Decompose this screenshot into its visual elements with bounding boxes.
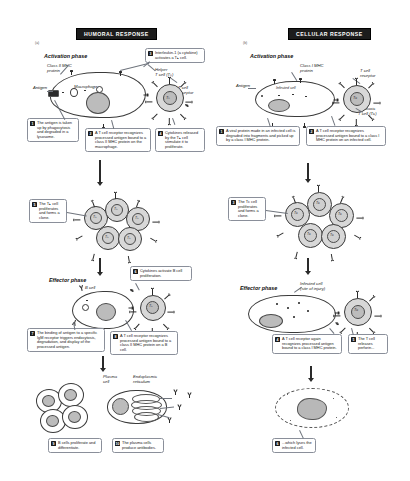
- plasma-cell-label: Plasma cell: [103, 374, 117, 384]
- step-text: B cells proliferate and differentiate.: [58, 441, 99, 450]
- step-text: Cytokines released by the Tₕ cell stimul…: [165, 131, 202, 149]
- callout-cellular-step-4: 4 A T cell receptor again recognizes pro…: [272, 334, 342, 354]
- infected-cell-injury-label: Infected cell (site of injury): [300, 281, 325, 291]
- callout-cellular-step-3: 3 The Tᴄ cell proliferates and forms a c…: [228, 197, 266, 221]
- infected-cell-effector-nucleus: [259, 314, 283, 328]
- cellular-t-cell-receptor-label: T cell receptor: [360, 68, 375, 78]
- step-number: 4: [275, 337, 280, 342]
- step-text: The Tₕ cell proliferates and forms a clo…: [39, 202, 64, 220]
- class-ii-mhc-nub: [120, 73, 121, 76]
- step-text: The T cell releases perforin...: [358, 337, 385, 351]
- step-text: Interleukin-1 (a cytokine) activates a T…: [155, 51, 202, 60]
- clone-cell-glyph: Tₕ: [135, 216, 138, 220]
- step-text: The antigen is taken up by phagocytosis …: [37, 121, 76, 139]
- callout-humoral-step-10: 10 The plasma cells produce antibodies.: [112, 438, 164, 453]
- step-number: 2: [309, 129, 314, 134]
- clone-cell-glyph: Tₕ: [127, 236, 130, 240]
- lysed-cell-debris: [297, 398, 327, 420]
- igm-receptor: [71, 319, 79, 327]
- step-number: 2: [88, 131, 93, 136]
- callout-humoral-step-9: 9 B cells proliferate and differentiate.: [48, 438, 102, 453]
- callout-humoral-step-3: 3 Interleukin-1 (a cytokine) activates a…: [145, 48, 205, 63]
- step-text: The binding of antigen to a specific IgM…: [37, 331, 102, 349]
- helper-t-cell-glyph: Tₕ: [166, 95, 170, 100]
- step-text: A viral protein made in an infected cell…: [226, 129, 297, 143]
- callout-humoral-step-6: 6 Cytokines activate B cell proliferatio…: [130, 266, 192, 281]
- class-i-mhc-label: Class I MHC protein: [300, 63, 324, 73]
- humoral-effector-phase-heading: Effector phase: [49, 277, 86, 283]
- class-i-mhc-nub: [334, 100, 337, 101]
- helper-t-cell-glyph: Tₕ: [149, 304, 152, 308]
- step-number: 5: [351, 337, 356, 342]
- step-number: 10: [115, 441, 120, 446]
- panel-marker-a: (a): [35, 41, 39, 45]
- step-text: A T cell receptor recognizes processed a…: [120, 334, 175, 352]
- cytotoxic-t-cell-glyph: Tᴄ: [354, 308, 358, 312]
- plasma-cell-nucleus: [112, 398, 129, 415]
- infected-cell-effector: [248, 295, 336, 333]
- step-number: 5: [32, 202, 37, 207]
- clone-cell-glyph: Tᴄ: [330, 233, 334, 237]
- infected-cell-label: Infected cell: [276, 86, 296, 90]
- clone-cell-glyph: Tₕ: [114, 207, 117, 211]
- step-number: 9: [51, 441, 56, 446]
- helper-t-cell-label: Helper T cell (Tₕ): [155, 67, 174, 77]
- step-number: 1: [219, 129, 224, 134]
- cellular-effector-phase-heading: Effector phase: [240, 285, 277, 291]
- endoplasmic-reticulum-label: Endoplasmic reticulum: [133, 374, 157, 384]
- igm-receptor: [77, 284, 84, 291]
- macrophage-nucleus: [86, 92, 110, 114]
- class-i-mhc-nub: [274, 81, 275, 84]
- clone-cell-glyph: Tᴄ: [294, 211, 298, 215]
- lysosome-vesicle: [70, 88, 78, 97]
- callout-cellular-step-6: 6 ...which lyses the infected cell.: [272, 438, 316, 453]
- antibody: [186, 392, 192, 398]
- callout-humoral-step-4: 4 Cytokines released by the Tₕ cell stim…: [155, 128, 205, 152]
- step-text: A T cell receptor recognizes processed a…: [95, 131, 148, 149]
- class-i-mhc-nub: [300, 80, 301, 83]
- step-text: The Tᴄ cell proliferates and forms a clo…: [238, 200, 263, 218]
- step-text: ...which lyses the infected cell.: [282, 441, 313, 450]
- callout-cellular-step-1: 1 A viral protein made in an infected ce…: [216, 126, 300, 146]
- callout-humoral-step-1: 1 The antigen is taken up by phagocytosi…: [27, 118, 79, 142]
- humoral-response-banner: HUMORAL RESPONSE: [76, 28, 157, 40]
- step-number: 6: [275, 441, 280, 446]
- step-number: 1: [30, 121, 35, 126]
- cellular-activation-phase-heading: Activation phase: [250, 53, 293, 59]
- step-number: 3: [148, 51, 153, 56]
- clone-cell-glyph: Tᴄ: [307, 232, 311, 236]
- class-i-mhc-nub: [335, 313, 338, 314]
- antibody: [176, 404, 182, 410]
- helper-t-cell-effector-nucleus: [146, 301, 159, 314]
- humoral-activation-phase-heading: Activation phase: [44, 53, 87, 59]
- callout-cellular-step-5: 5 The T cell releases perforin...: [348, 334, 388, 354]
- antigen-label: Antigen: [33, 85, 47, 90]
- step-number: 7: [30, 331, 35, 336]
- class-ii-mhc-nub: [103, 124, 104, 127]
- step-text: The plasma cells produce antibodies.: [122, 441, 161, 450]
- b-cell-label: B cell: [85, 285, 95, 290]
- step-text: A T cell receptor again recognizes proce…: [282, 337, 339, 351]
- callout-humoral-step-8: 8 A T cell receptor recognizes processed…: [110, 331, 178, 355]
- step-number: 6: [133, 269, 138, 274]
- infected-cell-nucleus: [268, 99, 290, 112]
- callout-humoral-step-5: 5 The Tₕ cell proliferates and forms a c…: [29, 199, 67, 223]
- cellular-response-banner: CELLULAR RESPONSE: [288, 28, 371, 40]
- step-number: 3: [231, 200, 236, 205]
- step-text: Cytokines activate B cell proliferation.: [140, 269, 189, 278]
- callout-cellular-step-2: 2 A T cell receptor recognizes processed…: [306, 126, 386, 146]
- callout-humoral-step-7: 7 The binding of antigen to a specific I…: [27, 328, 105, 352]
- clone-cell-glyph: Tₕ: [93, 215, 96, 219]
- clone-cell-glyph: Tₕ: [105, 235, 108, 239]
- clone-cell-glyph: Tᴄ: [316, 201, 320, 205]
- class-ii-mhc-nub: [144, 95, 147, 96]
- endocytic-vesicle: [82, 304, 89, 311]
- antibody: [172, 389, 178, 395]
- step-number: 4: [158, 131, 163, 136]
- step-text: A T cell receptor recognizes processed a…: [316, 129, 383, 143]
- class-i-mhc-nub: [304, 123, 305, 126]
- callout-humoral-step-2: 2 A T cell receptor recognizes processed…: [85, 128, 151, 152]
- clone-cell-glyph: Tᴄ: [338, 212, 342, 216]
- macrophage-label: Macrophage: [74, 84, 97, 89]
- cytotoxic-t-cell-glyph: Tᴄ: [353, 96, 357, 100]
